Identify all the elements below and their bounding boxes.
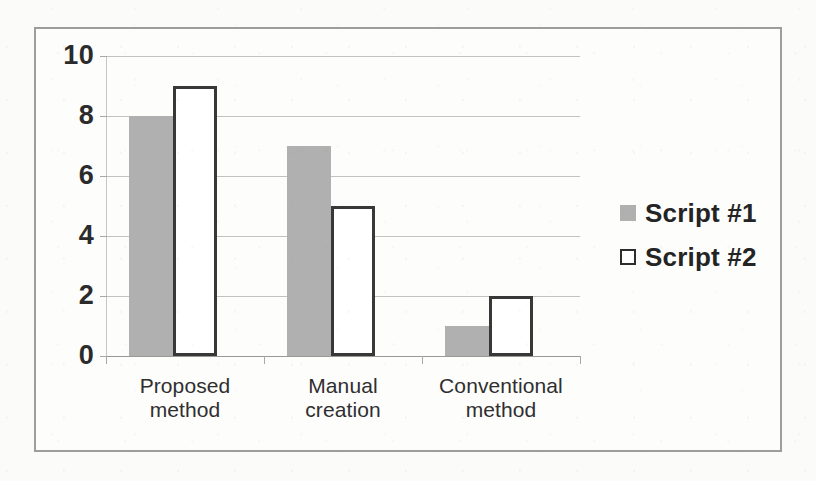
x-axis-category-3: Conventionalmethod [408, 374, 594, 423]
y-axis-tick-label: 6 [79, 162, 94, 189]
legend-item-1[interactable]: Script #1 [620, 191, 780, 235]
x-axis-tick-mark [264, 356, 265, 364]
y-axis-tick-mark [100, 56, 107, 57]
y-axis-tick-mark [100, 176, 107, 177]
legend-swatch-icon [620, 205, 636, 221]
bar-1-3 [445, 326, 489, 356]
x-axis-tick-mark [422, 356, 423, 364]
bar-1-1 [129, 116, 173, 356]
plot-area [106, 56, 580, 356]
x-axis-category-line: method [408, 398, 594, 422]
legend-label: Script #1 [645, 198, 757, 229]
y-axis-tick-mark [100, 236, 107, 237]
y-axis-tick-label: 2 [79, 282, 94, 309]
legend-item-2[interactable]: Script #2 [620, 235, 780, 279]
y-axis-tick-mark [100, 296, 107, 297]
y-axis-tick-mark [100, 116, 107, 117]
bar-2-3 [489, 296, 533, 356]
bar-2-1 [173, 86, 217, 356]
figure-frame: 0246810 ProposedmethodManualcreationConv… [34, 27, 782, 452]
y-axis-tick-label: 10 [63, 42, 94, 69]
x-axis-tick-mark [580, 356, 581, 364]
x-axis-baseline [106, 356, 580, 357]
y-axis-tick-label: 8 [79, 102, 94, 129]
legend-swatch-icon [620, 249, 636, 265]
bar-chart: 0246810 ProposedmethodManualcreationConv… [36, 29, 780, 450]
bar-2-2 [331, 206, 375, 356]
y-axis-tick-label: 4 [79, 222, 94, 249]
y-axis-tick-label: 0 [79, 342, 94, 369]
legend-label: Script #2 [645, 242, 757, 273]
gridline [106, 56, 580, 57]
chart-legend: Script #1Script #2 [620, 191, 780, 279]
y-axis-line [106, 56, 107, 356]
x-axis-category-line: Conventional [408, 374, 594, 398]
y-axis-tick-labels: 0246810 [36, 56, 94, 356]
x-axis-tick-mark [106, 356, 107, 364]
bar-1-2 [287, 146, 331, 356]
